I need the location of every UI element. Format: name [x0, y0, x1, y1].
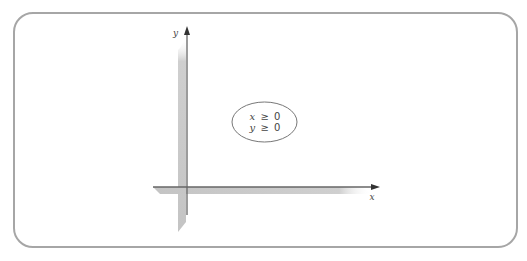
y-axis-arrow-icon	[184, 26, 190, 35]
y-axis-label: y	[172, 28, 179, 38]
y-axis-band	[178, 38, 186, 232]
x-axis-arrow-icon	[371, 184, 380, 190]
x-axis-label: x	[369, 192, 374, 202]
condition-x: x ≥ 0	[250, 111, 281, 122]
coordinate-plane: y x x ≥ 0 y ≥ 0	[0, 0, 527, 261]
condition-y: y ≥ 0	[249, 122, 281, 133]
x-axis-band	[153, 187, 372, 194]
